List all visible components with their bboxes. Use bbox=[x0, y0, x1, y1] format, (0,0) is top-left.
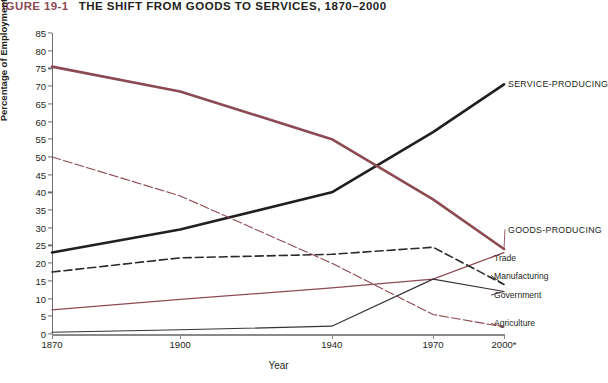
series-label-government: Government bbox=[494, 290, 541, 300]
x-tick-label: 1900 bbox=[170, 339, 191, 350]
figure-title: THE SHIFT FROM GOODS TO SERVICES, 1870–2… bbox=[79, 0, 387, 12]
y-axis-title: Percentage of Employment bbox=[0, 0, 9, 130]
x-tick-label: 2000* bbox=[492, 339, 517, 350]
series-label-trade: Trade bbox=[494, 253, 516, 263]
series-label-service-producing: SERVICE-PRODUCING bbox=[508, 79, 608, 89]
x-axis-line bbox=[52, 334, 505, 336]
x-tick-mark bbox=[180, 334, 181, 339]
plot-area: 8580757065605550454035302520151050 18701… bbox=[52, 33, 504, 334]
x-tick-mark bbox=[52, 334, 53, 339]
x-tick-mark bbox=[433, 334, 434, 339]
series-line-government bbox=[52, 279, 504, 332]
series-label-manufacturing: Manufacturing bbox=[494, 271, 548, 281]
series-label-goods-producing: GOODS-PRODUCING bbox=[508, 225, 602, 235]
series-line-manufacturing bbox=[52, 247, 504, 284]
series-line-service-producing bbox=[52, 84, 504, 252]
series-label-agriculture: Agriculture bbox=[494, 318, 535, 328]
x-tick-label: 1870 bbox=[41, 339, 62, 350]
x-tick-mark bbox=[332, 334, 333, 339]
series-line-agriculture bbox=[52, 157, 504, 327]
chart-lines bbox=[52, 33, 504, 334]
series-line-trade bbox=[52, 253, 504, 310]
figure-number: IGURE 19-1 bbox=[0, 0, 69, 12]
x-tick-label: 1940 bbox=[321, 339, 342, 350]
x-tick-label: 1970 bbox=[422, 339, 443, 350]
x-axis-title: Year bbox=[52, 360, 505, 371]
x-tick-mark bbox=[504, 334, 505, 339]
figure-header: IGURE 19-1 THE SHIFT FROM GOODS TO SERVI… bbox=[0, 0, 565, 16]
series-line-goods-producing bbox=[52, 67, 504, 249]
